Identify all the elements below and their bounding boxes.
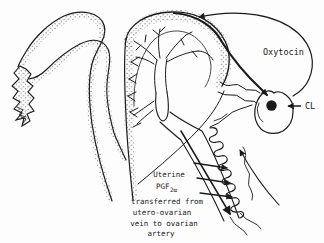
artery-tail: [230, 217, 247, 235]
caption-line5: vein to ovarian: [130, 219, 198, 228]
caption-line2-subscript: 2α: [170, 186, 178, 193]
oxytocin-label: Oxytocin: [263, 47, 304, 57]
caption: Uterine PGF 2α transferred from utero-ov…: [130, 170, 203, 238]
caption-line3: transferred from: [131, 197, 204, 206]
dome-inner-arch: [134, 31, 211, 106]
ovary: [255, 91, 293, 134]
caption-line1: Uterine: [153, 170, 185, 179]
vessel-loop: [156, 92, 169, 121]
ovarian-plexus: [218, 92, 258, 104]
fimbria: [12, 66, 34, 126]
cl-label: CL: [305, 101, 315, 111]
left-uterine-horn: [12, 12, 126, 201]
artery-coil: [209, 128, 243, 218]
ovarian-plexus: [210, 105, 252, 127]
uterus-ovary-diagram: Oxytocin CL Uterine PGF 2α transferred f…: [0, 0, 324, 243]
artery-flow-up-arrow: [240, 150, 279, 205]
diagram-canvas: Oxytocin CL Uterine PGF 2α transferred f…: [0, 0, 324, 243]
caption-line4: utero-ovarian: [133, 208, 192, 217]
dome-stipple: [128, 15, 226, 83]
ovary-outline: [255, 91, 293, 134]
artery-wall-wavy: [243, 147, 253, 200]
caption-line2-pgf: PGF: [156, 182, 170, 191]
caption-line6: artery: [147, 229, 175, 238]
corpus-luteum-dot: [266, 100, 276, 110]
loop-left-branch: [137, 110, 153, 124]
horn-stipple-inner: [34, 42, 124, 158]
